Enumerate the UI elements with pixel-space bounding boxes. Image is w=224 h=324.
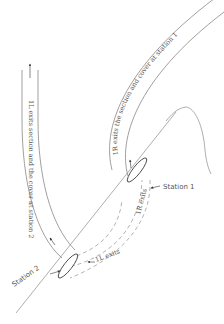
passage-wall-curve: [166, 107, 211, 174]
cave-survey-diagram: Station 1 Station 2 1L exits section and…: [0, 0, 224, 324]
station-1-pointer: [151, 186, 160, 188]
dashed-passages: [64, 180, 150, 278]
station-2-label: Station 2: [11, 264, 41, 289]
1L-full-label: 1L exits section and the cover at statio…: [27, 100, 35, 238]
passage-1R: [110, 0, 224, 176]
1R-full-label: 1R exits the section and cover at statio…: [111, 31, 180, 156]
1R-short-label: 1R exits: [134, 188, 149, 216]
survey-line: [16, 112, 176, 313]
station-1-label: Station 1: [163, 183, 195, 191]
1L-short-label: 1L exits: [94, 247, 121, 263]
station-1-marker: [125, 156, 150, 185]
